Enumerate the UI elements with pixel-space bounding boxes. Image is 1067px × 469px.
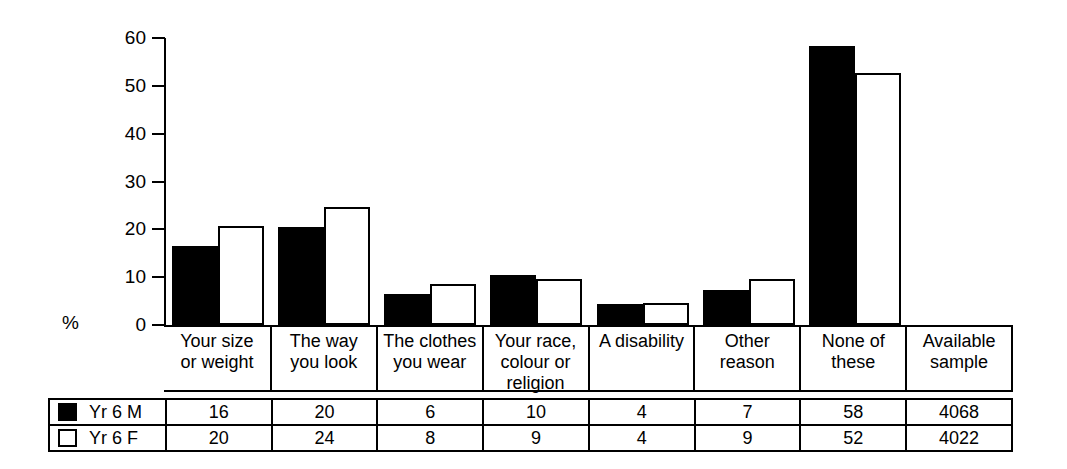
table-row: Yr 6 M162061047584068 (49, 399, 1012, 425)
bar-female (324, 207, 370, 325)
table-cell: 9 (483, 425, 589, 451)
y-axis-tick (152, 181, 165, 183)
bar-female (855, 73, 901, 325)
table-cell: 4 (589, 399, 695, 425)
y-axis-tick-label: 60 (90, 28, 146, 47)
category-label-cell: The wayyou look (270, 327, 376, 390)
bar-group (271, 38, 377, 325)
category-label-line: Your race, (495, 331, 576, 352)
bar-group (377, 38, 483, 325)
category-label-cell: The clothesyou wear (376, 327, 482, 390)
filled-square-icon (58, 403, 77, 421)
category-label-cell: Your sizeor weight (164, 327, 270, 390)
legend-cell: Yr 6 M (49, 399, 166, 425)
y-axis-tick-label: 40 (90, 124, 146, 143)
bar-male (703, 290, 749, 325)
y-axis-unit-label: % (62, 313, 79, 332)
table-cell: 8 (377, 425, 483, 451)
category-label-cell: Other reason (693, 327, 799, 390)
plot-area (165, 38, 1013, 325)
bar-female (643, 303, 689, 325)
table-cell: 20 (166, 425, 272, 451)
category-label-line: you wear (383, 352, 476, 373)
y-axis-tick (152, 37, 165, 39)
bar-group (802, 38, 908, 325)
y-axis-tick (152, 276, 165, 278)
y-axis-tick (152, 85, 165, 87)
bar-female (430, 284, 476, 325)
bar-male (597, 304, 643, 325)
category-label-line: The way (290, 331, 358, 352)
table-cell: 6 (377, 399, 483, 425)
bar-female (536, 279, 582, 325)
category-label-line: colour or (495, 352, 576, 373)
table-cell: 58 (800, 399, 906, 425)
table-cell: 24 (272, 425, 378, 451)
bar-male (172, 246, 218, 325)
category-label-line: you look (290, 352, 358, 373)
bar-female (749, 279, 795, 325)
y-axis-tick-label: 30 (90, 172, 146, 191)
data-table: Yr 6 M162061047584068Yr 6 F2024894952402… (48, 398, 1013, 452)
bar-group (696, 38, 802, 325)
category-label-cell: Your race,colour orreligion (482, 327, 588, 390)
table-cell: 20 (272, 399, 378, 425)
bar-male (384, 294, 430, 325)
category-label-line: The clothes (383, 331, 476, 352)
legend-series-label: Yr 6 M (89, 402, 142, 423)
bar-group (483, 38, 589, 325)
category-label-line: sample (923, 352, 996, 373)
y-axis-tick-label: 50 (90, 76, 146, 95)
y-axis-tick-label: 0 (90, 315, 146, 334)
category-label-line: None of these (801, 331, 905, 373)
table-row: Yr 6 F20248949524022 (49, 425, 1012, 451)
table-cell: 7 (695, 399, 801, 425)
category-label-row: Your sizeor weightThe wayyou lookThe clo… (164, 325, 1013, 392)
category-label-line: Available (923, 331, 996, 352)
category-label-line: religion (495, 373, 576, 394)
bar-male (490, 275, 536, 325)
bar-male (809, 46, 855, 325)
bar-male (278, 227, 324, 325)
table-cell: 4 (589, 425, 695, 451)
chart-figure: 6050403020100 % Your sizeor weightThe wa… (0, 0, 1067, 469)
table-cell: 10 (483, 399, 589, 425)
legend-cell: Yr 6 F (49, 425, 166, 451)
y-axis-tick-label: 10 (90, 267, 146, 286)
table-cell: 4022 (906, 425, 1012, 451)
category-label-cell: Availablesample (905, 327, 1011, 390)
y-axis-tick (152, 133, 165, 135)
legend-series-label: Yr 6 F (89, 428, 138, 449)
table-cell: 16 (166, 399, 272, 425)
category-label-line: A disability (599, 331, 684, 352)
table-cell: 52 (800, 425, 906, 451)
bar-female (218, 226, 264, 325)
bar-group (165, 38, 271, 325)
category-label-cell: None of these (799, 327, 905, 390)
table-cell: 4068 (906, 399, 1012, 425)
hollow-square-icon (58, 429, 77, 447)
bar-group (590, 38, 696, 325)
category-label-cell: A disability (588, 327, 694, 390)
category-label-line: or weight (180, 352, 253, 373)
y-axis-tick-label: 20 (90, 219, 146, 238)
table-cell: 9 (695, 425, 801, 451)
y-axis-tick (152, 228, 165, 230)
category-label-line: Other reason (695, 331, 799, 373)
category-label-line: Your size (180, 331, 253, 352)
